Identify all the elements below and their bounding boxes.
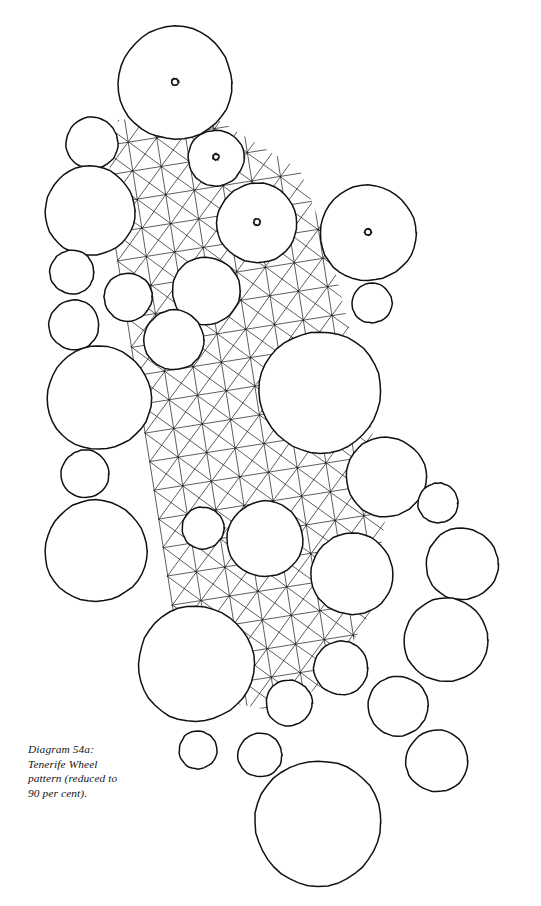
wheel-circle-medium <box>406 730 468 791</box>
wheel-circle-small <box>238 733 282 776</box>
wheel-circle-medium <box>45 166 135 255</box>
wheel-circle-small <box>313 641 368 695</box>
figure-root: Diagram 54a: Tenerife Wheel pattern (red… <box>0 0 541 906</box>
wheel-circle-small <box>66 117 118 169</box>
wheel-circle-large <box>259 332 381 453</box>
wheel-circle-small <box>418 483 458 523</box>
wheel-circle-small <box>266 680 312 726</box>
wheel-circle-large <box>139 606 255 721</box>
wheel-circle-small <box>61 450 109 498</box>
wheel-circle-small <box>50 250 94 294</box>
wheel-circle-medium <box>404 598 488 681</box>
wheel-circle-medium <box>217 183 297 263</box>
wheel-circle-small <box>188 130 244 186</box>
wheel-circle-medium <box>227 501 303 577</box>
wheel-circle-medium <box>311 533 393 615</box>
wheel-circle-medium <box>346 437 426 517</box>
wheel-circle-large <box>255 761 381 886</box>
figure-caption: Diagram 54a: Tenerife Wheel pattern (red… <box>28 742 178 800</box>
wheel-circle-small <box>104 273 152 321</box>
wheel-circle-small <box>352 283 392 323</box>
wheel-circle-medium <box>368 676 428 736</box>
wheel-circle-small <box>49 300 99 350</box>
wheel-circle-small <box>179 731 217 769</box>
wheel-circle-large <box>47 346 152 449</box>
wheel-circle-medium <box>426 528 498 600</box>
